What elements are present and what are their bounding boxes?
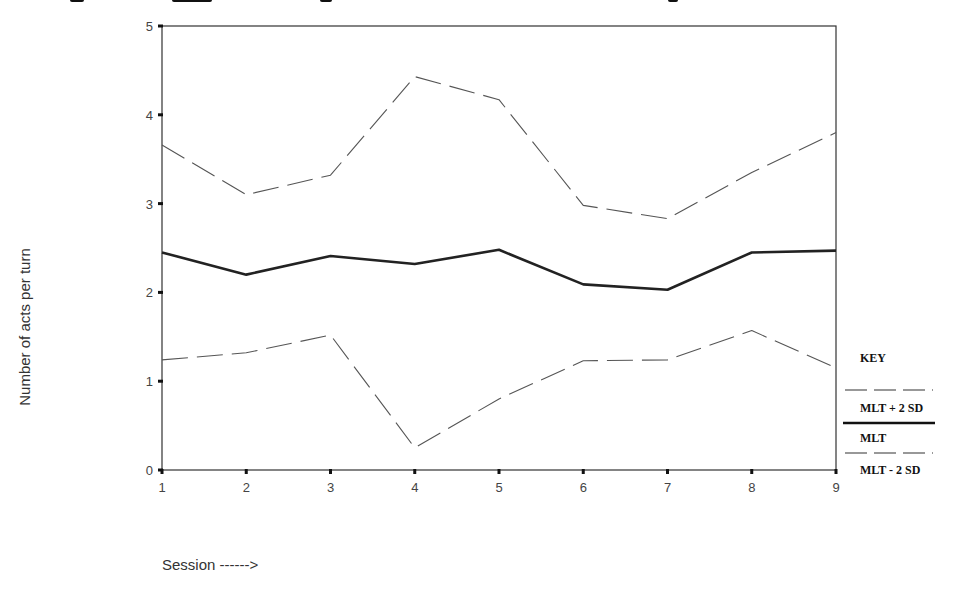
x-tick-label: 3 [327, 480, 334, 495]
y-tick-label: 4 [146, 108, 153, 123]
series-lines [162, 77, 836, 448]
y-tick-label: 0 [146, 463, 153, 478]
y-tick-label: 1 [146, 374, 153, 389]
legend-lower-label: MLT - 2 SD [860, 463, 921, 477]
plot-frame [162, 26, 836, 470]
x-axis-title: Session ------> [162, 556, 258, 573]
x-tick-label: 8 [748, 480, 755, 495]
x-tick [413, 469, 416, 474]
x-tick-label: 6 [580, 480, 587, 495]
x-tick [750, 469, 753, 474]
x-tick [498, 469, 501, 474]
legend-upper-label: MLT + 2 SD [860, 401, 924, 415]
legend-mid-label: MLT [860, 431, 886, 445]
y-tick [158, 380, 163, 383]
legend: KEY MLT + 2 SD MLT MLT - 2 SD [843, 351, 935, 477]
y-tick [158, 291, 163, 294]
y-tick-label: 3 [146, 197, 153, 212]
x-tick [582, 469, 585, 474]
y-tick [158, 25, 163, 28]
y-tick-label: 2 [146, 285, 153, 300]
x-tick-label: 4 [411, 480, 418, 495]
x-tick [666, 469, 669, 474]
line-chart: 012345 123456789 Number of acts per turn… [0, 0, 969, 600]
x-tick-label: 5 [495, 480, 502, 495]
x-axis: 123456789 [158, 469, 839, 495]
x-tick [329, 469, 332, 474]
x-tick-label: 7 [664, 480, 671, 495]
series-mlt-2-sd [162, 331, 836, 448]
x-tick [161, 469, 164, 474]
x-tick [245, 469, 248, 474]
series-mlt-2-sd [162, 77, 836, 219]
legend-title: KEY [860, 351, 886, 365]
y-tick [158, 113, 163, 116]
y-tick-label: 5 [146, 19, 153, 34]
y-axis: 012345 [146, 19, 163, 478]
x-tick [835, 469, 838, 474]
x-tick-label: 1 [158, 480, 165, 495]
x-tick-label: 9 [832, 480, 839, 495]
series-mlt [162, 250, 836, 290]
x-tick-label: 2 [243, 480, 250, 495]
y-axis-title: Number of acts per turn [16, 248, 33, 406]
plot-border [162, 26, 836, 470]
y-tick [158, 202, 163, 205]
